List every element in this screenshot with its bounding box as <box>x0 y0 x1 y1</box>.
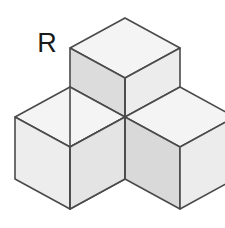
figure-container: R <box>0 0 225 228</box>
isometric-cube-figure: R <box>0 0 225 228</box>
figure-label: R <box>37 28 57 58</box>
